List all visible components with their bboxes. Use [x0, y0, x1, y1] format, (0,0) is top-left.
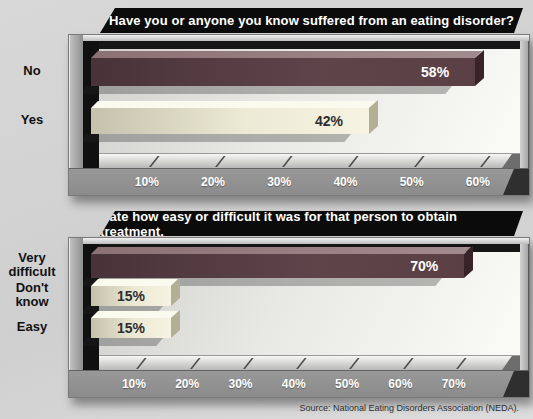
- axis-tick: [190, 358, 201, 369]
- axis-tick-label: 10%: [135, 175, 159, 189]
- plot-area: 70%15%15%: [83, 244, 520, 370]
- axis-tick: [403, 358, 414, 369]
- bar-shadow: [80, 86, 452, 94]
- axis-tick: [243, 358, 254, 369]
- axis-tick: [349, 358, 360, 369]
- axis-tick: [456, 358, 467, 369]
- axis-tick-label: 40%: [333, 175, 357, 189]
- bar-don-t-know: 15%: [91, 286, 171, 306]
- category-label-yes: Yes: [0, 113, 64, 127]
- source-note: Source: National Eating Disorders Associ…: [0, 403, 519, 413]
- bar-value-label: 15%: [117, 288, 145, 304]
- axis-tick-label: 20%: [175, 377, 199, 391]
- axis-tick: [414, 156, 425, 167]
- axis-front-face: 10%20%30%40%50%60%: [69, 168, 529, 195]
- inner-shadow-top: [97, 41, 520, 49]
- axis-tick-labels: 10%20%30%40%50%60%70%: [83, 371, 520, 397]
- axis-tick: [149, 156, 160, 167]
- axis-tick-label: 40%: [282, 377, 306, 391]
- bar-value-label: 58%: [421, 64, 449, 80]
- bar-top: [91, 51, 482, 58]
- chart-title-treatment-difficulty: Rate how easy or difficult it was for th…: [100, 211, 523, 236]
- bar-no: 58%: [91, 58, 475, 86]
- axis-tick-label: 30%: [228, 377, 252, 391]
- bar-top: [91, 101, 376, 108]
- bar-cap: [369, 100, 378, 134]
- axis-tick: [136, 358, 147, 369]
- category-label-no: No: [0, 64, 64, 78]
- frame-top-bevel: [69, 238, 529, 244]
- axis-tick-label: 60%: [466, 175, 490, 189]
- axis-tick: [215, 156, 226, 167]
- axis-floor: [83, 153, 520, 168]
- axis-tick-label: 70%: [442, 377, 466, 391]
- axis-tick-labels: 10%20%30%40%50%60%: [83, 169, 520, 195]
- axis-tick: [480, 156, 491, 167]
- chart-title-eating-disorder: Have you or anyone you know suffered fro…: [100, 8, 523, 33]
- axis-tick-label: 10%: [122, 377, 146, 391]
- plot-area: 58%42%: [83, 41, 520, 168]
- bar-cap: [475, 50, 484, 86]
- frame-left-wall: [69, 35, 83, 168]
- frame-right-wall: [520, 41, 529, 168]
- axis-tick-label: 50%: [335, 377, 359, 391]
- bars-area: 70%15%15%: [83, 244, 520, 355]
- frame-top-bevel: [69, 35, 529, 41]
- axis-tick-label: 30%: [267, 175, 291, 189]
- bars-area: 58%42%: [83, 41, 520, 153]
- bar-easy: 15%: [91, 318, 171, 338]
- category-label-easy: Easy: [0, 320, 64, 334]
- frame-left-wall: [69, 238, 83, 370]
- category-label-very-difficult: Very difficult: [0, 251, 64, 280]
- axis-tick: [296, 358, 307, 369]
- bar-top: [91, 247, 471, 254]
- bar-value-label: 42%: [315, 113, 343, 129]
- bar-value-label: 70%: [410, 258, 438, 274]
- axis-tick-label: 60%: [388, 377, 412, 391]
- bar-value-label: 15%: [117, 320, 145, 336]
- bar-shadow: [80, 134, 351, 142]
- axis-floor: [83, 355, 520, 370]
- axis-tick-label: 20%: [201, 175, 225, 189]
- chart-panel-eating-disorder: Have you or anyone you know suffered fro…: [0, 8, 533, 205]
- axis-tick: [282, 156, 293, 167]
- frame-right-wall: [520, 244, 529, 370]
- bar-top: [91, 311, 178, 318]
- axis-tick: [348, 156, 359, 167]
- axis-tick-label: 50%: [400, 175, 424, 189]
- chart-frame: 70%15%15% 10%20%30%40%50%60%70%: [68, 237, 530, 398]
- chart-panel-treatment-difficulty: Rate how easy or difficult it was for th…: [0, 211, 533, 401]
- category-label-don-t-know: Don't know: [0, 281, 64, 310]
- bar-very-difficult: 70%: [91, 254, 464, 278]
- axis-front-face: 10%20%30%40%50%60%70%: [69, 370, 529, 397]
- bar-top: [91, 279, 178, 286]
- chart-frame: 58%42% 10%20%30%40%50%60%: [68, 34, 530, 196]
- bar-shadow: [80, 338, 163, 346]
- bar-yes: 42%: [91, 108, 369, 134]
